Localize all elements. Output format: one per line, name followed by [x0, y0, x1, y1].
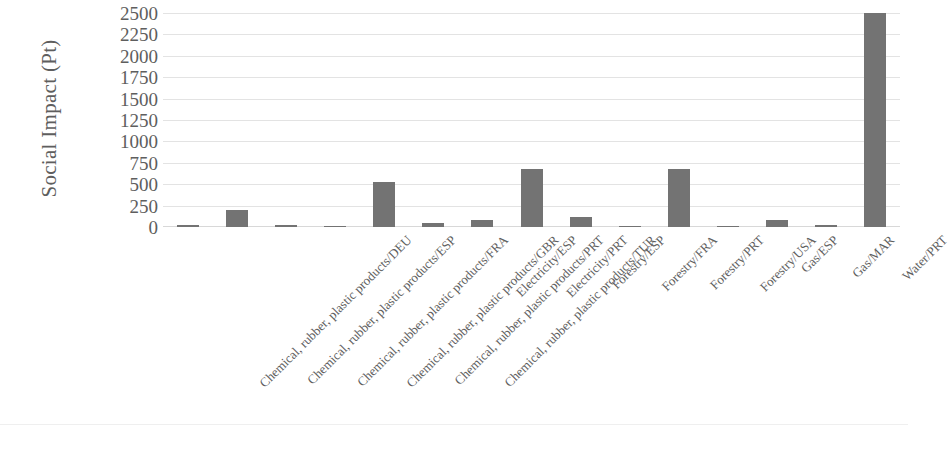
bar[interactable] [373, 182, 395, 227]
gridline [163, 56, 900, 57]
y-axis-tick-labels: 25002250200017501500125010007505002500 [96, 0, 158, 236]
bottom-rule [0, 424, 908, 425]
bar[interactable] [226, 210, 248, 227]
gridline [163, 120, 900, 121]
y-axis-tick-label: 500 [96, 175, 158, 194]
y-axis-tick-label: 1000 [96, 132, 158, 151]
x-axis-tick-labels: Chemical, rubber, plastic products/DEUCh… [163, 227, 900, 427]
y-axis-title-label: Social Impact (Pt) [36, 39, 61, 197]
bar[interactable] [570, 217, 592, 227]
y-axis-tick-label: 1750 [96, 68, 158, 87]
x-axis-tick-label: Chemical, rubber, plastic products/DEU [257, 233, 414, 390]
gridline [163, 163, 900, 164]
bar[interactable] [864, 13, 886, 227]
gridline [163, 99, 900, 100]
plot-area [163, 13, 900, 227]
y-axis-tick-label: 1250 [96, 111, 158, 130]
bar[interactable] [668, 169, 690, 227]
y-axis-tick-label: 250 [96, 196, 158, 215]
gridline [163, 34, 900, 35]
y-axis-tick-label: 2500 [96, 4, 158, 23]
gridline [163, 141, 900, 142]
bar[interactable] [521, 169, 543, 227]
bar[interactable] [471, 220, 493, 227]
y-axis-tick-label: 750 [96, 153, 158, 172]
x-axis-tick-label: Water/PRT [900, 233, 950, 283]
y-axis-tick-label: 2000 [96, 46, 158, 65]
y-axis-tick-label: 2250 [96, 25, 158, 44]
y-axis-tick-label: 0 [96, 218, 158, 237]
y-axis-tick-label: 1500 [96, 89, 158, 108]
gridline [163, 13, 900, 14]
x-axis-tick-label: Gas/MAR [850, 233, 898, 281]
bar[interactable] [766, 220, 788, 227]
gridline [163, 77, 900, 78]
